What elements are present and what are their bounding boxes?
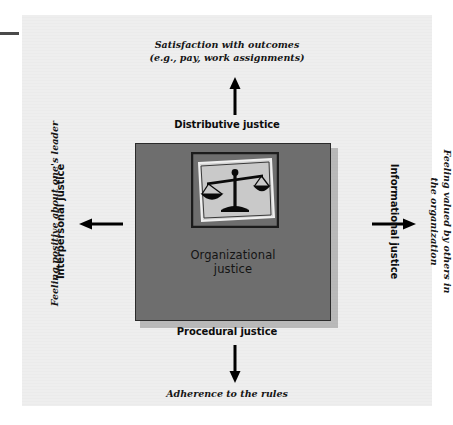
core-box-title-line2: justice [136, 262, 330, 276]
arrow-up-icon [229, 77, 241, 115]
organizational-justice-diagram: Satisfaction with outcomes (e.g., pay, w… [22, 15, 432, 406]
dimension-label-distributive: Distributive justice [22, 119, 432, 130]
outcome-label-informational: Feeling valued by others in the organiza… [428, 137, 453, 307]
outcome-label-informational-line2: the organization [428, 137, 441, 307]
dimension-label-interpersonal: Interpersonal justice [55, 142, 66, 302]
outcome-label-informational-line1: Feeling valued by others in [440, 137, 453, 307]
arrow-left-icon [79, 218, 123, 230]
outcome-label-distributive: Satisfaction with outcomes (e.g., pay, w… [22, 39, 432, 64]
organizational-justice-core-box: Organizational justice [135, 143, 331, 321]
outcome-label-distributive-line1: Satisfaction with outcomes [22, 39, 432, 52]
scales-of-justice-icon [191, 152, 279, 228]
dimension-label-informational: Informational justice [389, 142, 400, 302]
margin-rule [0, 32, 19, 35]
core-box-title-line1: Organizational [136, 248, 330, 262]
outcome-label-procedural: Adherence to the rules [22, 388, 432, 401]
core-box-title: Organizational justice [136, 248, 330, 276]
outcome-label-distributive-line2: (e.g., pay, work assignments) [22, 52, 432, 65]
arrow-down-icon [229, 345, 241, 383]
